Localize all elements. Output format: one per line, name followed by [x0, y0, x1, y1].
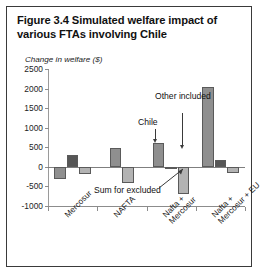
x-tick: [147, 207, 148, 211]
figure-title: Figure 3.4 Simulated welfare impact of v…: [17, 14, 243, 41]
x-tick-label: Mercosur: [63, 189, 94, 220]
y-tick-label: 2500: [24, 64, 43, 74]
x-tick-label-line: NAFTA: [112, 194, 137, 219]
x-tick: [97, 207, 98, 211]
y-tick-label: 1000: [24, 123, 43, 133]
x-tick-label: Nafta +Mercosur: [161, 189, 198, 226]
figure-card: Figure 3.4 Simulated welfare impact of v…: [6, 6, 252, 267]
x-tick: [48, 207, 49, 211]
zero-baseline: [48, 167, 245, 168]
y-tick: [45, 89, 49, 90]
y-tick-label: 0: [38, 162, 43, 172]
y-tick: [45, 69, 49, 70]
bar: [215, 160, 227, 167]
y-axis-title: Change in welfare ($): [25, 55, 102, 64]
bar: [110, 148, 122, 167]
x-tick-label: NAFTA: [112, 194, 137, 219]
y-tick-label: 2000: [24, 84, 43, 94]
y-tick: [45, 128, 49, 129]
x-tick: [196, 207, 197, 211]
x-tick: [245, 207, 246, 211]
annotation-chile-arrowhead: [153, 139, 157, 143]
y-tick-label: 1500: [24, 103, 43, 113]
y-tick-label: 500: [29, 142, 43, 152]
y-tick: [45, 147, 49, 148]
y-tick: [45, 108, 49, 109]
y-tick-label: -1000: [22, 201, 43, 211]
bar: [122, 167, 134, 183]
x-tick-label-line: Mercosur: [63, 189, 94, 220]
y-tick: [45, 186, 49, 187]
y-tick-label: -500: [26, 181, 43, 191]
annotation-chile: Chile: [138, 117, 158, 127]
x-tick-label: Nafta +Mercosur + EU: [210, 174, 258, 226]
annotation-other-included: Other included: [155, 91, 209, 101]
bar: [79, 167, 91, 174]
bar: [67, 155, 79, 167]
annotation-sum-for-excluded: Sum for excluded: [94, 185, 161, 195]
annotation-sum-for-excluded-leader: [159, 169, 185, 191]
bar: [227, 167, 239, 173]
bar: [54, 167, 66, 180]
annotation-other-included-leader: [182, 113, 183, 146]
annotation-other-included-arrowhead: [180, 145, 184, 149]
bar: [153, 143, 165, 166]
